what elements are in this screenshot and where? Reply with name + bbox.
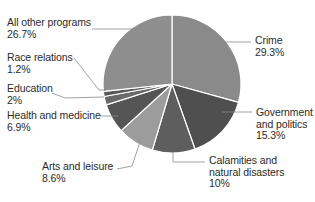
label-calamities: Calamities and natural disasters 10% [209, 155, 284, 190]
pie-slices [103, 15, 241, 153]
label-arts-pct: 8.6% [42, 173, 113, 185]
label-race-name: Race relations [7, 52, 73, 64]
label-health: Health and medicine 6.9% [7, 110, 101, 133]
label-arts-name: Arts and leisure [42, 161, 113, 173]
label-crime: Crime 29.3% [255, 35, 284, 58]
label-education-pct: 2% [7, 95, 53, 107]
label-arts: Arts and leisure 8.6% [42, 161, 113, 184]
label-crime-name: Crime [255, 35, 284, 47]
label-government-pct: 15.3% [256, 130, 313, 142]
label-race: Race relations 1.2% [7, 52, 73, 75]
label-other: All other programs 26.7% [7, 17, 91, 40]
label-other-pct: 26.7% [7, 29, 91, 41]
label-health-pct: 6.9% [7, 122, 101, 134]
pie-slice-all-other-programs [103, 15, 172, 91]
leader-arts [117, 142, 140, 169]
label-race-pct: 1.2% [7, 64, 73, 76]
label-education-name: Education [7, 83, 53, 95]
label-crime-pct: 29.3% [255, 47, 284, 59]
leader-calamities [173, 152, 205, 162]
label-health-name: Health and medicine [7, 110, 101, 122]
label-calamities-name: Calamities and [209, 155, 284, 167]
label-government-name: Government [256, 107, 313, 119]
leader-race [74, 58, 106, 90]
leader-education [52, 93, 104, 98]
label-other-name: All other programs [7, 17, 91, 29]
label-education: Education 2% [7, 83, 53, 106]
label-government: Government and politics 15.3% [256, 107, 313, 142]
label-calamities-pct: 10% [209, 178, 284, 190]
